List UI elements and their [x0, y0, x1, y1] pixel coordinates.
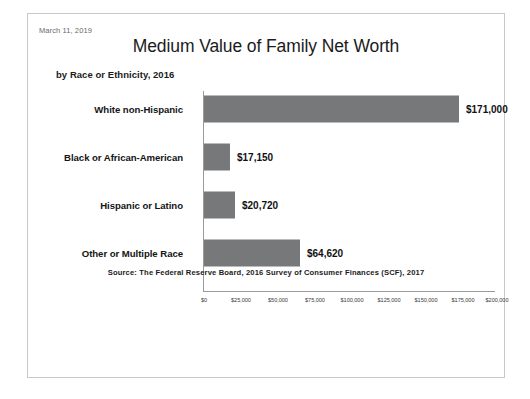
category-label: Other or Multiple Race	[33, 248, 183, 259]
x-tick-label: $100,000	[341, 297, 364, 303]
x-tick-label: $25,000	[231, 297, 251, 303]
bar	[204, 240, 300, 267]
chart-subtitle: by Race or Ethnicity, 2016	[56, 69, 174, 80]
source-note: Source: The Federal Reserve Board, 2016 …	[28, 268, 504, 277]
category-axis: White non-Hispanic Black or African-Amer…	[39, 86, 191, 286]
x-tick-label: $175,000	[452, 297, 475, 303]
bar-value-label: $20,720	[242, 200, 278, 211]
category-label: Hispanic or Latino	[33, 200, 183, 211]
bars-container: $171,000 $17,150 $20,720 $64,620	[203, 86, 495, 286]
category-label: White non-Hispanic	[33, 104, 183, 115]
category-label: Black or African-American	[33, 152, 183, 163]
x-tick-label: $200,000	[486, 297, 509, 303]
value-axis-ticks: $0 $25,000 $50,000 $75,000 $100,000 $125…	[203, 294, 495, 312]
bar	[204, 96, 459, 123]
x-tick-label: $50,000	[268, 297, 288, 303]
bar	[204, 144, 230, 171]
date-stamp: March 11, 2019	[39, 26, 92, 35]
screenshot-root: March 11, 2019 Medium Value of Family Ne…	[0, 0, 530, 399]
value-axis-baseline	[203, 291, 495, 292]
bar	[204, 192, 235, 219]
x-tick-label: $75,000	[305, 297, 325, 303]
chart-card: March 11, 2019 Medium Value of Family Ne…	[27, 13, 505, 378]
plot-area: White non-Hispanic Black or African-Amer…	[39, 86, 495, 316]
x-tick-label: $125,000	[378, 297, 401, 303]
bar-value-label: $64,620	[307, 248, 343, 259]
bar-value-label: $171,000	[466, 104, 508, 115]
bar-value-label: $17,150	[237, 152, 273, 163]
page-title: Medium Value of Family Net Worth	[28, 36, 504, 57]
x-tick-label: $150,000	[415, 297, 438, 303]
x-tick-label: $0	[201, 297, 207, 303]
